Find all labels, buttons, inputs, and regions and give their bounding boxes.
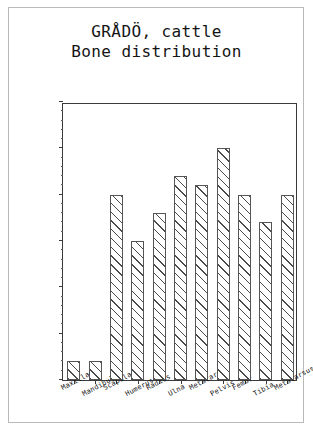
- chart-title: GRÅDÖ, cattle Bone distribution: [0, 22, 313, 62]
- bar-mandibula: [89, 361, 102, 380]
- chart-figure: GRÅDÖ, cattle Bone distribution Minimum …: [0, 0, 313, 432]
- bar-metacarpus: [195, 185, 208, 380]
- bar-pelvis: [217, 148, 230, 380]
- x-tick-label-tibia: Tibia: [252, 381, 275, 398]
- bar-scapula: [110, 195, 123, 380]
- x-tick-label-ulna: Ulna: [167, 383, 186, 398]
- bar-humerus: [131, 241, 144, 380]
- bars-layer: [63, 104, 296, 380]
- bar-tibia: [259, 222, 272, 380]
- bar-femur: [238, 195, 251, 380]
- y-tick-major: [59, 101, 63, 102]
- bar-ulna: [174, 176, 187, 380]
- chart-title-line-2: Bone distribution: [0, 42, 313, 62]
- bar-metatarsus: [281, 195, 294, 380]
- bar-maxilla: [67, 361, 80, 380]
- plot-area: 051015202530 MaxillaMandibulaScapulaHume…: [62, 103, 297, 381]
- bar-radius: [153, 213, 166, 380]
- chart-title-line-1: GRÅDÖ, cattle: [0, 22, 313, 42]
